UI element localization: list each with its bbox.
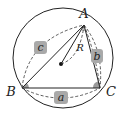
triangle-abc <box>22 25 100 88</box>
diagram-canvas: c b a R A B C <box>0 0 127 117</box>
side-c-label: c <box>37 41 43 54</box>
radius-label: R <box>75 42 84 53</box>
vertex-a-label: A <box>78 6 88 21</box>
side-b-label: b <box>93 50 100 63</box>
vertex-c-label: C <box>106 84 116 99</box>
vertex-b-label: B <box>5 84 16 99</box>
side-a-label: a <box>58 91 65 104</box>
triangle-circumcircle-diagram: c b a R A B C <box>0 0 127 117</box>
